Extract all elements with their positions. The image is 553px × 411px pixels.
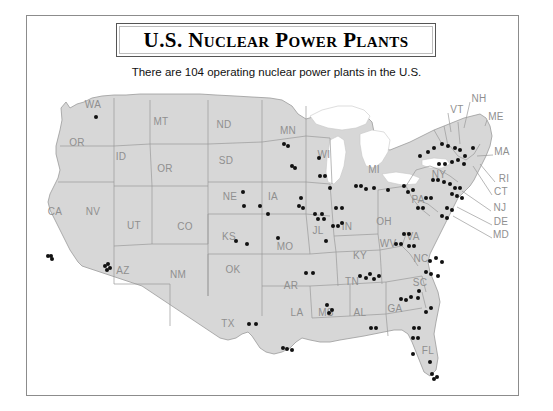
plant-dot bbox=[409, 295, 413, 299]
callout-label-vt: VT bbox=[450, 104, 463, 115]
plant-dot bbox=[443, 162, 447, 166]
plant-dot bbox=[428, 360, 432, 364]
plant-dot bbox=[322, 217, 326, 221]
plant-dot bbox=[364, 187, 368, 191]
plant-dot bbox=[432, 146, 436, 150]
plant-dot bbox=[374, 326, 378, 330]
plant-dot bbox=[424, 270, 428, 274]
plant-dot bbox=[276, 236, 280, 240]
callout-label-ri: RI bbox=[499, 173, 510, 184]
plant-dot bbox=[417, 289, 421, 293]
plant-dot bbox=[434, 256, 438, 260]
plant-dot bbox=[416, 296, 420, 300]
plant-dot bbox=[448, 182, 452, 186]
plant-dot bbox=[460, 196, 464, 200]
plant-dot bbox=[286, 144, 290, 148]
plant-dot bbox=[50, 257, 54, 261]
plant-dot bbox=[431, 178, 435, 182]
plant-dot bbox=[320, 212, 324, 216]
title-box: U.S. Nuclear Power Plants bbox=[116, 23, 436, 57]
plant-dot bbox=[328, 186, 332, 190]
plant-dot bbox=[372, 186, 376, 190]
plant-dot bbox=[364, 276, 368, 280]
leader-line-de bbox=[457, 207, 492, 225]
plant-dot bbox=[453, 186, 457, 190]
page-title: U.S. Nuclear Power Plants bbox=[144, 28, 409, 53]
leader-line-nj bbox=[462, 191, 491, 211]
plant-dot bbox=[368, 272, 372, 276]
plant-dot bbox=[411, 352, 415, 356]
plant-dot bbox=[458, 148, 462, 152]
plant-dot bbox=[340, 221, 344, 225]
plant-dot bbox=[394, 242, 398, 246]
plant-dot bbox=[455, 194, 459, 198]
plant-dot bbox=[234, 239, 238, 243]
plant-dot bbox=[304, 271, 308, 275]
plant-dot bbox=[429, 272, 433, 276]
callout-label-de: DE bbox=[494, 216, 509, 227]
map-landmass bbox=[48, 94, 492, 376]
plant-dot bbox=[313, 212, 317, 216]
plant-dot bbox=[258, 204, 262, 208]
us-outline bbox=[48, 94, 492, 376]
plant-dot bbox=[402, 184, 406, 188]
plant-dot bbox=[406, 190, 410, 194]
plant-dot bbox=[453, 146, 457, 150]
plant-dot bbox=[399, 242, 403, 246]
plant-dot bbox=[412, 244, 416, 248]
plant-dot bbox=[429, 306, 433, 310]
plant-dot bbox=[266, 212, 270, 216]
plant-dot bbox=[463, 154, 467, 158]
plant-dot bbox=[407, 232, 411, 236]
plant-dot bbox=[323, 174, 327, 178]
plant-dot bbox=[430, 372, 434, 376]
subtitle: There are 104 operating nuclear power pl… bbox=[0, 66, 553, 78]
plant-dot bbox=[416, 206, 420, 210]
plant-dot bbox=[429, 196, 433, 200]
plant-dot bbox=[254, 322, 258, 326]
plant-dot bbox=[471, 146, 475, 150]
plant-dot bbox=[424, 196, 428, 200]
plant-dot bbox=[354, 184, 358, 188]
plant-dot bbox=[282, 142, 286, 146]
plant-dot bbox=[241, 190, 245, 194]
plant-dot bbox=[336, 224, 340, 228]
plant-dot bbox=[417, 326, 421, 330]
us-map-svg bbox=[30, 86, 510, 386]
plant-dot bbox=[435, 375, 439, 379]
callout-label-ma: MA bbox=[494, 146, 510, 157]
plant-dot bbox=[399, 297, 403, 301]
plant-dot bbox=[331, 224, 335, 228]
plant-dot bbox=[369, 326, 373, 330]
callout-label-ct: CT bbox=[494, 186, 508, 197]
plant-dot bbox=[290, 348, 294, 352]
plant-dot bbox=[293, 166, 297, 170]
plant-dot bbox=[442, 180, 446, 184]
plant-dot bbox=[421, 206, 425, 210]
plant-dot bbox=[428, 259, 432, 263]
plant-dot bbox=[299, 196, 303, 200]
plant-dot bbox=[359, 184, 363, 188]
plant-dot bbox=[437, 162, 441, 166]
plant-dot bbox=[334, 206, 338, 210]
plant-dot bbox=[386, 188, 390, 192]
plant-dot bbox=[358, 274, 362, 278]
plant-dot bbox=[285, 347, 289, 351]
plant-dot bbox=[402, 232, 406, 236]
leader-line-md bbox=[453, 216, 492, 238]
plant-dot bbox=[450, 192, 454, 196]
plant-dot bbox=[377, 274, 381, 278]
leader-line-ct bbox=[473, 166, 492, 195]
plant-dot bbox=[456, 158, 460, 162]
plant-dot bbox=[450, 208, 454, 212]
plant-dot bbox=[247, 322, 251, 326]
plant-dot bbox=[242, 204, 246, 208]
plant-dot bbox=[440, 142, 444, 146]
us-map: WAORMTIDORNDSDNEKSOKTXCANVUTCOAZNMMNIAMO… bbox=[30, 86, 510, 386]
callout-label-me: ME bbox=[488, 111, 504, 122]
plant-dot bbox=[411, 188, 415, 192]
plant-dot bbox=[94, 115, 98, 119]
plant-dot bbox=[458, 186, 462, 190]
plant-dot bbox=[372, 277, 376, 281]
plant-dot bbox=[318, 174, 322, 178]
